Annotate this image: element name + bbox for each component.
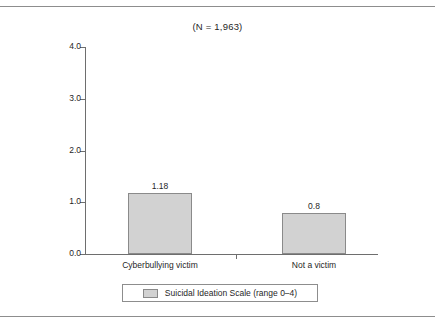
y-axis-line xyxy=(85,47,86,255)
legend-swatch-suicidal-ideation-scale xyxy=(143,289,158,298)
chart-title: (N = 1,963) xyxy=(0,21,435,32)
x-category-label-cyberbullying-victim: Cyberbullying victim xyxy=(122,260,198,270)
top-divider xyxy=(0,6,435,7)
legend-label-suicidal-ideation-scale: Suicidal Ideation Scale (range 0–4) xyxy=(165,288,297,298)
y-tick-label-2: 2.0 xyxy=(69,145,81,155)
bar-not-a-victim[interactable]: 0.8 xyxy=(282,213,346,254)
figure-panel: (N = 1,963) 4.0 3.0 2.0 1.0 0.0 1.18 xyxy=(0,0,435,328)
bar-value-cyberbullying-victim: 1.18 xyxy=(152,181,169,191)
plot-area: 4.0 3.0 2.0 1.0 0.0 1.18 0.8 Cyberbullyi… xyxy=(85,47,378,254)
bar-cyberbullying-victim[interactable]: 1.18 xyxy=(128,193,192,254)
x-axis-line xyxy=(85,254,378,255)
chart-legend: Suicidal Ideation Scale (range 0–4) xyxy=(122,284,318,302)
bar-value-not-a-victim: 0.8 xyxy=(308,201,320,211)
x-tick-mark-center xyxy=(236,254,237,259)
y-tick-label-3: 3.0 xyxy=(69,93,81,103)
y-tick-label-1: 1.0 xyxy=(69,196,81,206)
y-tick-label-4: 4.0 xyxy=(69,41,81,51)
x-category-label-not-a-victim: Not a victim xyxy=(292,260,336,270)
bottom-divider xyxy=(0,316,435,317)
y-tick-label-0: 0.0 xyxy=(69,248,81,258)
